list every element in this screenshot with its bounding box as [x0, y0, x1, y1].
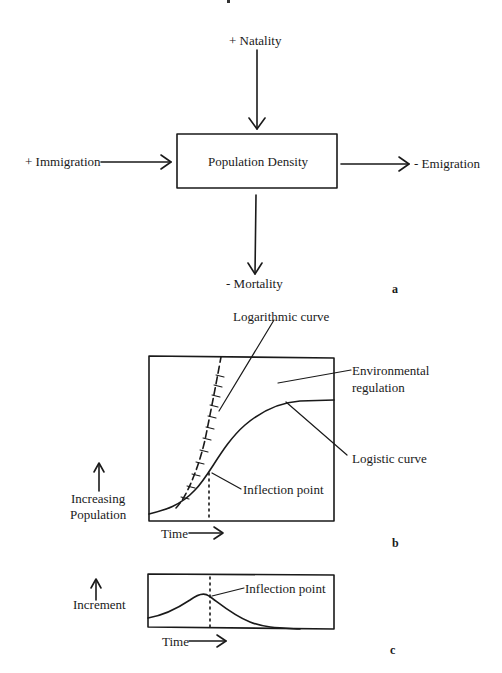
emigration-label: - Emigration [414, 157, 480, 170]
inflection-point-label-b: Inflection point [243, 483, 324, 496]
inflection-point-label-c: Inflection point [245, 582, 326, 595]
increasing-population-label-1: Increasing [71, 492, 125, 505]
logistic-curve-label: Logistic curve [352, 452, 427, 465]
environmental-regulation-label-2: regulation [352, 381, 405, 394]
mortality-label: - Mortality [226, 277, 283, 290]
inflection-leader [212, 473, 241, 489]
immigration-label: + Immigration [25, 155, 101, 168]
immigration-arrow [101, 155, 171, 169]
population-density-label: Population Density [208, 155, 308, 168]
mortality-arrow [248, 195, 262, 274]
time-arrow-c [189, 635, 226, 647]
time-arrow-b [189, 527, 223, 539]
increment-label: Increment [73, 598, 126, 611]
time-label-c: Time [162, 635, 189, 648]
environmental-regulation-label-1: Environmental [352, 364, 429, 377]
panel-tag-c: c [390, 644, 395, 656]
panel-tag-a: a [392, 283, 398, 295]
top-mark [227, 0, 230, 3]
environmental-leader [278, 370, 351, 383]
diagram-canvas [0, 0, 502, 673]
increasing-population-label-2: Population [70, 508, 126, 521]
increasing-population-arrow [94, 463, 104, 491]
natality-arrow [249, 50, 265, 129]
emigration-arrow [341, 157, 409, 171]
logarithmic-curve-label: Logarithmic curve [233, 310, 329, 323]
logistic-leader [286, 402, 347, 455]
panel-tag-b: b [392, 537, 399, 549]
time-label-b: Time [161, 527, 188, 540]
increment-inflection-leader [212, 588, 244, 596]
increment-curve [148, 594, 300, 629]
logarithmic-leader [219, 320, 274, 411]
natality-label: + Natality [229, 34, 281, 47]
